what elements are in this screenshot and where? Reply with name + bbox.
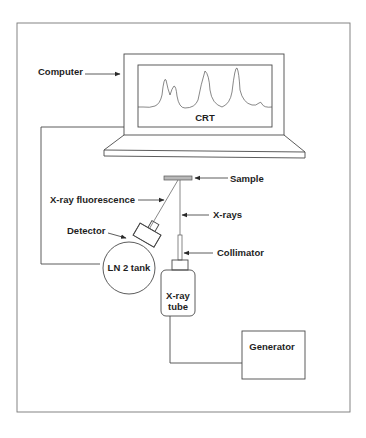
fluorescence-beam [148, 180, 178, 231]
detector-assembly: LN 2 tank [103, 216, 165, 294]
xrays-label: X-rays [213, 209, 242, 220]
computer: CRT [104, 54, 305, 158]
cable-tube-generator [170, 316, 242, 363]
detector-arrow [108, 233, 126, 238]
crt-label: CRT [195, 112, 215, 123]
detector-label: Detector [67, 225, 106, 236]
xray-tube-neck [172, 260, 188, 270]
ln2-tank-label: LN 2 tank [108, 262, 151, 273]
xrf-diagram: CRT Computer Sample X-rays X-ray fluores… [0, 0, 366, 438]
collimator [178, 235, 182, 260]
xray-fluorescence-label: X-ray fluorescence [50, 194, 135, 205]
sample-label: Sample [230, 173, 264, 184]
xray-tube-label-line2: tube [168, 301, 188, 312]
xray-tube-label-line1: X-ray [166, 290, 190, 301]
generator-label: Generator [249, 341, 295, 352]
generator [242, 331, 305, 379]
computer-label: Computer [38, 66, 83, 77]
collimator-label: Collimator [217, 247, 264, 258]
spectrum-trace [138, 68, 272, 108]
keyboard-base [104, 135, 305, 158]
sample [164, 176, 192, 180]
diagram-frame [17, 23, 350, 412]
